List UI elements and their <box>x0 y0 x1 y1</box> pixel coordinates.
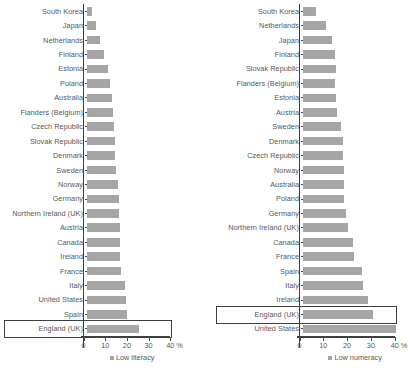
bar-track <box>303 47 417 61</box>
value-axis-tick-label: 30 <box>367 341 375 350</box>
bar-track <box>303 148 417 162</box>
category-label: Australia <box>0 93 87 102</box>
value-axis-tick <box>371 337 372 340</box>
bar-track <box>87 206 207 220</box>
bar <box>303 122 341 131</box>
value-axis-tick <box>323 337 324 340</box>
category-label: Flanders (Belgium) <box>207 79 303 88</box>
category-label: England (UK) <box>0 324 87 333</box>
bar-track <box>303 18 417 32</box>
legend-right: Low numeracy <box>328 353 382 362</box>
bar-row: Italy <box>207 278 417 292</box>
bar <box>303 267 362 276</box>
bar-chart-low-literacy: South KoreaJapanNetherlandsFinlandEstoni… <box>0 0 207 340</box>
category-label: Germany <box>0 194 87 203</box>
bar-track <box>303 278 417 292</box>
bar <box>87 137 115 146</box>
bar-row: Czech Republic <box>207 148 417 162</box>
value-axis-tick <box>84 337 85 340</box>
category-label: South Korea <box>0 7 87 16</box>
category-label: Finland <box>207 50 303 59</box>
value-axis-tick <box>170 337 171 340</box>
bar-track <box>303 293 417 307</box>
bar <box>87 36 100 45</box>
value-axis-tick <box>395 337 396 340</box>
bar-row: Austria <box>0 221 207 235</box>
value-axis-tick <box>347 337 348 340</box>
value-axis-tick <box>300 337 301 340</box>
category-label: Poland <box>0 79 87 88</box>
bar <box>303 151 343 160</box>
bar <box>303 36 332 45</box>
bar-row: England (UK) <box>0 322 207 336</box>
bar-track <box>87 105 207 119</box>
bar-track <box>87 278 207 292</box>
bar-row: Finland <box>0 47 207 61</box>
bar-row: Spain <box>207 264 417 278</box>
bar <box>303 166 344 175</box>
bar <box>87 195 119 204</box>
bar-row: France <box>207 249 417 263</box>
legend-swatch-icon-left <box>110 356 114 360</box>
bar <box>303 7 316 16</box>
bar-row: England (UK) <box>207 307 417 321</box>
bar-row: France <box>0 264 207 278</box>
bar <box>303 94 336 103</box>
bar-track <box>303 307 417 321</box>
axis-unit-label-left: % <box>176 341 183 350</box>
legend-label-left: Low literacy <box>116 353 155 362</box>
bar-row: Spain <box>0 307 207 321</box>
bar <box>303 195 344 204</box>
bar-track <box>87 235 207 249</box>
bar-row: Australia <box>207 177 417 191</box>
value-axis-tick-label: 40 <box>166 341 174 350</box>
value-axis-tick-label: 0 <box>297 341 301 350</box>
figure-two-panel-bar-charts: South KoreaJapanNetherlandsFinlandEstoni… <box>0 0 417 373</box>
value-axis-tick <box>105 337 106 340</box>
bar-row: Japan <box>0 18 207 32</box>
bar <box>87 79 110 88</box>
category-label: Austria <box>207 108 303 117</box>
bar-track <box>303 33 417 47</box>
category-label: Denmark <box>0 151 87 160</box>
bar-row: Sweden <box>207 120 417 134</box>
bar-track <box>303 76 417 90</box>
bar <box>87 223 120 232</box>
category-label: Netherlands <box>207 21 303 30</box>
bar <box>87 65 108 74</box>
bar <box>87 238 120 247</box>
bar-track <box>303 206 417 220</box>
chart-panel-low-literacy: South KoreaJapanNetherlandsFinlandEstoni… <box>0 0 207 373</box>
bar-row: Norway <box>207 163 417 177</box>
category-label: United States <box>0 295 87 304</box>
bar-track <box>87 177 207 191</box>
bar-track <box>303 120 417 134</box>
bar-track <box>303 221 417 235</box>
bar-row: Slovak Republic <box>0 134 207 148</box>
legend-swatch-icon-right <box>328 356 332 360</box>
bar-rows-right: South KoreaNetherlandsJapanFinlandSlovak… <box>207 4 417 336</box>
bar-row: Germany <box>207 206 417 220</box>
bar-track <box>87 221 207 235</box>
category-label: France <box>0 267 87 276</box>
category-label: Canada <box>0 238 87 247</box>
legend-left: Low literacy <box>110 353 155 362</box>
bar-track <box>87 307 207 321</box>
category-label: France <box>207 252 303 261</box>
bar <box>87 50 104 59</box>
chart-panel-low-numeracy: South KoreaNetherlandsJapanFinlandSlovak… <box>207 0 417 373</box>
category-label: Italy <box>207 281 303 290</box>
bar-row: Estonia <box>207 91 417 105</box>
value-axis-tick-label: 10 <box>319 341 327 350</box>
category-label: Czech Republic <box>0 122 87 131</box>
bar <box>87 296 126 305</box>
bar <box>303 65 336 74</box>
category-label: Slovak Republic <box>207 64 303 73</box>
bar <box>303 21 326 30</box>
bar-track <box>303 235 417 249</box>
bar-row: Norway <box>0 177 207 191</box>
bar-track <box>303 177 417 191</box>
legend-label-right: Low numeracy <box>334 353 381 362</box>
bar-row: Poland <box>0 76 207 90</box>
bar-row: Estonia <box>0 62 207 76</box>
